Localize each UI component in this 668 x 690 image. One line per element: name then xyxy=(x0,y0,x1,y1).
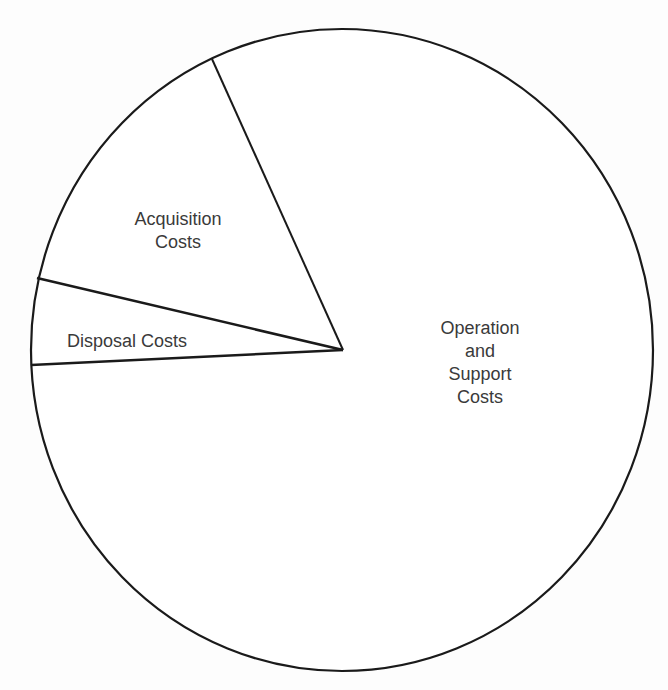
label-line: Support xyxy=(448,364,511,384)
label-line: and xyxy=(465,341,495,361)
label-line: Costs xyxy=(457,387,503,407)
pie-chart: Acquisition Costs Disposal Costs Operati… xyxy=(0,0,668,690)
label-line: Disposal Costs xyxy=(67,331,187,351)
label-line: Costs xyxy=(155,232,201,252)
pie-chart-svg: Acquisition Costs Disposal Costs Operati… xyxy=(0,0,668,690)
label-line: Operation xyxy=(440,318,519,338)
label-disposal-costs: Disposal Costs xyxy=(67,331,187,351)
label-line: Acquisition xyxy=(134,209,221,229)
